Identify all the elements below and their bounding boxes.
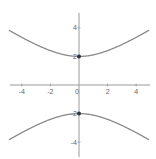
hyperbola-plot: -4-202442-2-4 [0,0,156,159]
x-tick-label: -4 [19,88,25,95]
vertex-top-point [77,54,81,58]
axes [10,13,150,157]
x-tick-label: 4 [134,88,138,95]
vertex-bottom-point [77,112,81,116]
x-tick-label: -2 [47,88,53,95]
y-tick-label: -4 [71,139,77,146]
y-tick-label: 4 [73,24,77,31]
x-tick-label: 0 [75,88,79,95]
x-tick-label: 2 [106,88,110,95]
